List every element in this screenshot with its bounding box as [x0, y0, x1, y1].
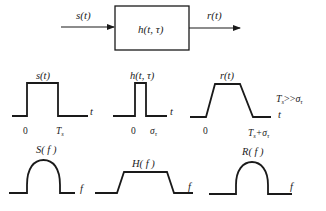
r-t-waveform — [190, 84, 271, 117]
s-t-tick-zero: 0 — [23, 126, 28, 136]
r-t-title: r(t) — [220, 70, 235, 82]
plot-r-t: r(t) t 0 Ts+στ — [190, 70, 282, 139]
S-f-spectrum — [9, 160, 75, 193]
s-t-waveform — [12, 83, 88, 116]
r-t-tick-Ts-plus-sigma: Ts+στ — [248, 128, 270, 139]
plot-s-t: s(t) t 0 Ts — [12, 70, 94, 137]
R-f-title: R( f ) — [241, 146, 264, 158]
plot-R-f: R( f ) f — [209, 146, 295, 194]
R-f-spectrum — [209, 162, 292, 194]
r-t-tick-zero: 0 — [203, 126, 208, 136]
r-t-axis-label: t — [278, 109, 282, 120]
h-t-waveform — [113, 83, 167, 116]
output-label: r(t) — [207, 9, 222, 22]
condition-annotation: Ts>>στ — [276, 93, 303, 105]
block-diagram: s(t) h(t, τ) r(t) — [61, 6, 240, 50]
s-t-title: s(t) — [36, 70, 51, 82]
H-f-title: H( f ) — [131, 158, 155, 170]
s-t-tick-Ts: Ts — [56, 126, 64, 137]
S-f-axis-label: f — [80, 183, 85, 194]
h-t-tick-sigma: στ — [150, 126, 158, 137]
input-label: s(t) — [76, 9, 91, 22]
plot-H-f: H( f ) f — [95, 158, 193, 193]
S-f-title: S( f ) — [36, 144, 57, 156]
H-f-spectrum — [95, 172, 193, 193]
R-f-axis-label: f — [290, 181, 295, 192]
H-f-axis-label: f — [188, 181, 193, 192]
channel-diagram: s(t) h(t, τ) r(t) s(t) t 0 Ts h(t, τ) t … — [0, 0, 326, 211]
h-t-title: h(t, τ) — [130, 70, 155, 82]
block-label: h(t, τ) — [138, 23, 164, 36]
s-t-axis-label: t — [90, 106, 94, 117]
plot-S-f: S( f ) f — [9, 144, 85, 194]
plot-h-t: h(t, τ) t 0 στ — [113, 70, 174, 137]
h-t-axis-label: t — [170, 106, 174, 117]
h-t-tick-zero: 0 — [131, 126, 136, 136]
